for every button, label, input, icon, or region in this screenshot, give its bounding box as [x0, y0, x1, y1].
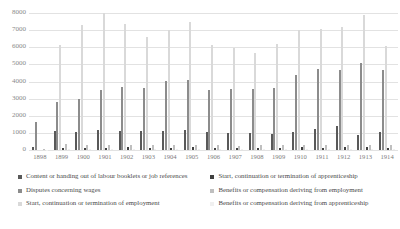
bar [189, 22, 191, 150]
bar [168, 30, 170, 150]
bar [382, 70, 384, 150]
bar [124, 24, 126, 150]
bar [350, 149, 352, 150]
legend-label: Start, continuation or termination of em… [26, 199, 160, 208]
legend-label: Start, continuation or termination of ap… [218, 172, 357, 181]
bar-group [72, 0, 94, 150]
bar [252, 89, 254, 150]
legend-item: Start, continuation or termination of ap… [210, 172, 388, 181]
bar [230, 89, 232, 150]
bar [133, 149, 135, 150]
bar [387, 148, 389, 150]
bar [211, 45, 213, 150]
bar-group [116, 0, 138, 150]
bar-group [289, 0, 311, 150]
bar [65, 144, 67, 150]
bar [276, 44, 278, 150]
bar [62, 148, 64, 150]
bar [301, 147, 303, 150]
bar [81, 25, 83, 150]
bar-group [94, 0, 116, 150]
bar [56, 102, 58, 150]
bar [306, 149, 308, 150]
bar [320, 29, 322, 150]
bar [379, 132, 381, 150]
bar [360, 63, 362, 150]
bar [97, 130, 99, 150]
bar [238, 146, 240, 150]
chart-figure: 800070006000500040003000200010000 189818… [0, 0, 400, 229]
y-axis-tick: 7000 [12, 26, 26, 33]
bar [143, 88, 145, 150]
bar-group [268, 0, 290, 150]
bar [192, 147, 194, 150]
legend-swatch-icon [210, 189, 214, 193]
legend-swatch-icon [210, 175, 214, 179]
bar [385, 46, 387, 150]
y-axis-tick: 1000 [12, 129, 26, 136]
x-axis-tick: 1898 [29, 151, 51, 163]
bar [369, 145, 371, 150]
bar [86, 145, 88, 150]
bar-group [246, 0, 268, 150]
bar [105, 148, 107, 150]
bar [295, 75, 297, 150]
legend-item: Benefits or compensation deriving from a… [210, 199, 388, 208]
bar [363, 15, 365, 150]
bar [390, 145, 392, 150]
bar-group [51, 0, 73, 150]
legend-label: Content or handing out of labour booklet… [26, 172, 187, 181]
bar [241, 149, 243, 150]
bar [257, 148, 259, 150]
bar [371, 149, 373, 150]
x-axis-tick: 1906 [203, 151, 225, 163]
bar-group [355, 0, 377, 150]
bar-group [29, 0, 51, 150]
x-axis-tick: 1914 [376, 151, 398, 163]
bar [273, 88, 275, 150]
bar [347, 145, 349, 150]
bar [285, 149, 287, 150]
x-axis-tick: 1899 [51, 151, 73, 163]
bar [111, 149, 113, 150]
x-axis-tick: 1900 [72, 151, 94, 163]
bar-group [159, 0, 181, 150]
legend-swatch-icon [210, 202, 214, 206]
bar-groups [29, 0, 398, 150]
bar [292, 132, 294, 150]
bar [325, 145, 327, 150]
bar [263, 149, 265, 150]
y-axis-tick: 6000 [12, 43, 26, 50]
bar [336, 126, 338, 150]
bar [170, 148, 172, 150]
legend-swatch-icon [18, 202, 22, 206]
bar [206, 132, 208, 150]
bar [260, 145, 262, 150]
bar [314, 129, 316, 150]
bar [75, 132, 77, 150]
legend-swatch-icon [18, 189, 22, 193]
bar [198, 149, 200, 150]
x-axis-tick: 1908 [246, 151, 268, 163]
bar [271, 134, 273, 150]
bar [366, 147, 368, 150]
legend-item: Content or handing out of labour booklet… [18, 172, 210, 181]
bar [152, 145, 154, 150]
bar [89, 149, 91, 150]
legend-label: Benefits or compensation deriving from a… [218, 199, 368, 208]
bar [184, 130, 186, 150]
bar [140, 131, 142, 150]
bar-group [138, 0, 160, 150]
legend-column-right: Start, continuation or termination of ap… [210, 172, 388, 224]
legend-item: Benefits or compensation deriving from e… [210, 186, 388, 195]
bar [108, 145, 110, 150]
y-axis-tick: 0 [23, 146, 27, 153]
bar [344, 147, 346, 150]
bar-group [376, 0, 398, 150]
x-axis-tick: 1901 [94, 151, 116, 163]
x-axis-labels: 1898189919001901190219031904190519061907… [29, 151, 398, 163]
bar [217, 145, 219, 150]
bar [127, 147, 129, 150]
x-axis-tick: 1903 [138, 151, 160, 163]
bar [298, 30, 300, 150]
